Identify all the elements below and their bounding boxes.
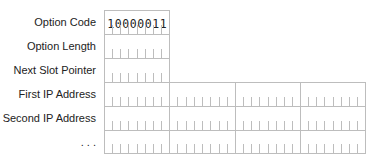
bit-ticks [105,73,169,82]
first-ip-byte-3 [235,82,301,107]
bit-ticks [105,121,169,130]
first-ip-byte-2 [169,82,236,107]
bit-ticks [170,144,235,153]
option-code-byte: 1 0 0 0 0 0 1 1 [104,10,170,35]
more-ip-byte-2 [169,130,236,154]
next-slot-pointer-byte [104,58,170,83]
bit-ticks [236,144,300,153]
row-label-option-code: Option Code [34,10,96,34]
second-ip-byte-2 [169,106,236,131]
row-label-first-ip-address: First IP Address [19,82,96,106]
bit-ticks [105,49,169,58]
bit-ticks [170,121,235,130]
more-ip-byte-3 [235,130,301,154]
bit-ticks [236,121,300,130]
bit-ticks [105,25,169,34]
bit-ticks [301,97,365,106]
row-label-second-ip-address: Second IP Address [3,106,96,130]
more-ip-byte-1 [104,130,170,154]
second-ip-byte-1 [104,106,170,131]
bit-ticks [105,144,169,153]
bit-ticks [105,97,169,106]
first-ip-byte-4 [300,82,366,107]
row-label-next-slot-pointer: Next Slot Pointer [13,58,96,82]
second-ip-byte-3 [235,106,301,131]
bit-ticks [301,144,365,153]
first-ip-byte-1 [104,82,170,107]
more-ip-byte-4 [300,130,366,154]
option-length-byte [104,34,170,59]
bit-ticks [301,121,365,130]
row-label-option-length: Option Length [27,34,96,58]
bit-ticks [236,97,300,106]
second-ip-byte-4 [300,106,366,131]
row-label-ellipsis: . . . [81,130,96,154]
bit-ticks [170,97,235,106]
